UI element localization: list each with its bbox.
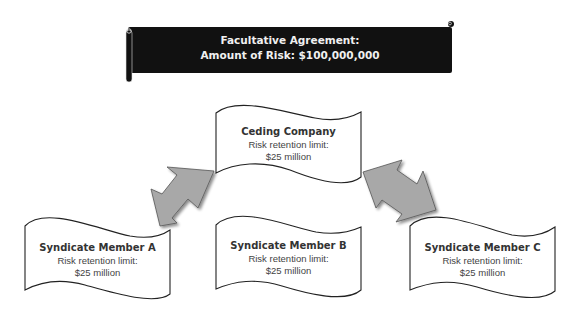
node-line-2: $25 million: [216, 151, 361, 163]
node-title: Ceding Company: [216, 125, 361, 139]
node-line-1: Risk retention limit:: [25, 255, 170, 267]
node-line-2: $25 million: [410, 267, 555, 279]
ceding-company-node: Ceding Company Risk retention limit: $25…: [216, 125, 361, 163]
banner-line-1: Facultative Agreement:: [135, 33, 445, 48]
syndicate-member-a-node: Syndicate Member A Risk retention limit:…: [25, 241, 170, 279]
node-line-2: $25 million: [25, 267, 170, 279]
node-title: Syndicate Member B: [216, 239, 361, 253]
double-arrow-right: [363, 160, 436, 222]
syndicate-member-c-node: Syndicate Member C Risk retention limit:…: [410, 241, 555, 279]
banner-title: Facultative Agreement: Amount of Risk: $…: [135, 33, 445, 63]
node-title: Syndicate Member A: [25, 241, 170, 255]
syndicate-member-b-node: Syndicate Member B Risk retention limit:…: [216, 239, 361, 277]
node-line-2: $25 million: [216, 265, 361, 277]
node-title: Syndicate Member C: [410, 241, 555, 255]
banner-line-2: Amount of Risk: $100,000,000: [135, 48, 445, 63]
double-arrow-left: [151, 167, 214, 226]
node-line-1: Risk retention limit:: [216, 139, 361, 151]
node-line-1: Risk retention limit:: [410, 255, 555, 267]
node-line-1: Risk retention limit:: [216, 253, 361, 265]
